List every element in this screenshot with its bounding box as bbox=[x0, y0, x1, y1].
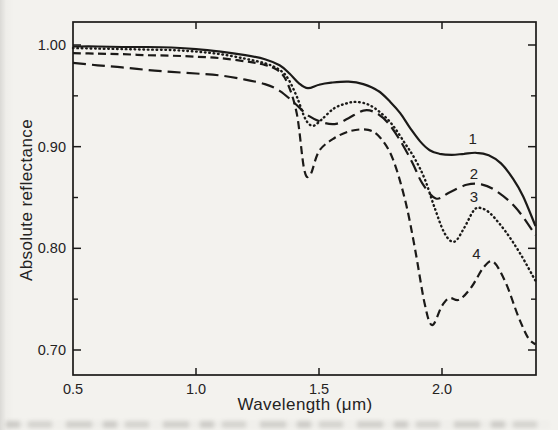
cropped-caption-smudge bbox=[6, 421, 550, 428]
series-number-label-2: 2 bbox=[470, 165, 478, 182]
x-axis-title: Wavelength (μm) bbox=[237, 395, 372, 415]
y-tick-label: 0.90 bbox=[38, 139, 66, 155]
plot-frame bbox=[73, 22, 536, 375]
x-tick-label: 2.0 bbox=[432, 381, 452, 397]
y-tick-label: 0.80 bbox=[38, 240, 66, 256]
series-number-label-1: 1 bbox=[469, 130, 477, 147]
series-number-label-4: 4 bbox=[472, 245, 480, 262]
series-curve-1 bbox=[73, 46, 536, 226]
series-number-label-3: 3 bbox=[470, 188, 478, 205]
y-tick-label: 1.00 bbox=[38, 37, 66, 53]
scanned-figure-page: 1.000.900.800.700.51.01.52.01234 Absolut… bbox=[0, 0, 558, 430]
reflectance-chart-canvas: 1.000.900.800.700.51.01.52.01234 bbox=[0, 0, 558, 430]
x-tick-label: 1.0 bbox=[186, 381, 206, 397]
series-curve-2 bbox=[73, 63, 536, 235]
series-curve-4 bbox=[73, 53, 536, 344]
y-tick-label: 0.70 bbox=[38, 342, 66, 358]
x-tick-label: 0.5 bbox=[63, 381, 83, 397]
y-axis-title: Absolute reflectance bbox=[17, 119, 37, 281]
